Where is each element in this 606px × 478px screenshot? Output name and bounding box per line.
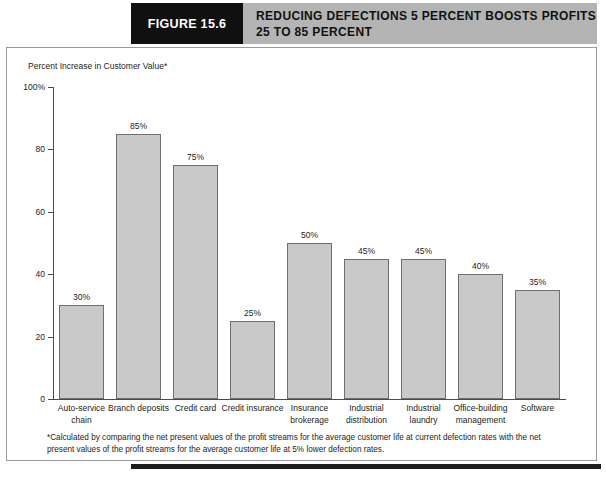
bar-chart-plot-area: 020406080100% 30%Auto-service chain85%Br… — [53, 87, 566, 399]
y-axis-tick-mark — [48, 149, 54, 150]
figure-title-block: REDUCING DEFECTIONS 5 PERCENT BOOSTS PRO… — [243, 3, 597, 44]
bar-value-label: 45% — [344, 246, 389, 256]
y-axis-tick-label: 40 — [36, 269, 45, 279]
x-axis-category-label: Software — [506, 403, 569, 415]
bar[interactable] — [230, 321, 275, 399]
bar[interactable] — [59, 305, 104, 399]
bar-group[interactable]: 35%Software — [515, 87, 560, 399]
x-axis-category-label: Industrial laundry — [392, 403, 455, 426]
x-axis-category-label: Branch deposits — [107, 403, 170, 415]
y-axis-tick-label: 100% — [23, 82, 45, 92]
y-axis-tick-mark — [48, 87, 54, 88]
bar-group[interactable]: 30%Auto-service chain — [59, 87, 104, 399]
bar-group[interactable]: 85%Branch deposits — [116, 87, 161, 399]
bar[interactable] — [116, 134, 161, 399]
bar-value-label: 35% — [515, 277, 560, 287]
y-axis-line — [53, 87, 54, 399]
bar[interactable] — [515, 290, 560, 399]
x-axis-category-label: Industrial distribution — [335, 403, 398, 426]
y-axis-title: Percent Increase in Customer Value* — [28, 61, 167, 71]
figure-header: FIGURE 15.6 REDUCING DEFECTIONS 5 PERCEN… — [131, 3, 597, 44]
y-axis-tick-label: 20 — [36, 332, 45, 342]
x-axis-category-label: Credit card — [164, 403, 227, 415]
bar-value-label: 50% — [287, 230, 332, 240]
x-axis-category-label: Office-building management — [449, 403, 512, 426]
bar-value-label: 25% — [230, 308, 275, 318]
bar-group[interactable]: 75%Credit card — [173, 87, 218, 399]
figure-title-line-1: REDUCING DEFECTIONS 5 PERCENT BOOSTS PRO… — [256, 8, 597, 24]
bar-value-label: 85% — [116, 121, 161, 131]
bar-value-label: 40% — [458, 261, 503, 271]
bar-value-label: 75% — [173, 152, 218, 162]
y-axis-tick-label: 80 — [36, 144, 45, 154]
bar-value-label: 30% — [59, 292, 104, 302]
figure-shadow-bottom — [131, 464, 601, 469]
figure-footnote: *Calculated by comparing the net present… — [47, 432, 567, 456]
y-axis-tick-mark — [48, 337, 54, 338]
figure-title-line-2: 25 TO 85 PERCENT — [256, 24, 597, 40]
figure-number-block: FIGURE 15.6 — [131, 3, 243, 44]
bar[interactable] — [401, 259, 446, 399]
bar-value-label: 45% — [401, 246, 446, 256]
bar-group[interactable]: 45%Industrial distribution — [344, 87, 389, 399]
bar[interactable] — [287, 243, 332, 399]
y-axis-tick-label: 0 — [40, 394, 45, 404]
x-axis-category-label: Auto-service chain — [50, 403, 113, 426]
bar-group[interactable]: 45%Industrial laundry — [401, 87, 446, 399]
figure-number-label: FIGURE 15.6 — [148, 17, 226, 31]
x-axis-category-label: Insurance brokerage — [278, 403, 341, 426]
bar-group[interactable]: 40%Office-building management — [458, 87, 503, 399]
y-axis-tick-mark — [48, 274, 54, 275]
bar[interactable] — [173, 165, 218, 399]
bar-group[interactable]: 25%Credit insurance — [230, 87, 275, 399]
x-axis-line — [53, 399, 566, 400]
x-axis-category-label: Credit insurance — [221, 403, 284, 415]
y-axis-tick-mark — [48, 399, 54, 400]
bar-group[interactable]: 50%Insurance brokerage — [287, 87, 332, 399]
bar[interactable] — [344, 259, 389, 399]
figure-body-frame: Percent Increase in Customer Value* 0204… — [6, 47, 597, 461]
y-axis-tick-label: 60 — [36, 207, 45, 217]
bar[interactable] — [458, 274, 503, 399]
y-axis-tick-mark — [48, 212, 54, 213]
